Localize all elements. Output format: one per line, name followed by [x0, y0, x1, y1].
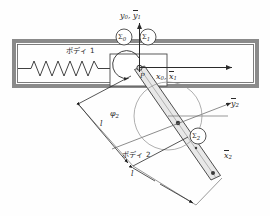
phi-symbol: φ: [110, 109, 116, 118]
x2-symbol: x: [224, 150, 229, 160]
spring-element: [18, 61, 111, 76]
frame1-label: Σ1: [142, 33, 150, 41]
frame0-label: Σ0: [118, 33, 126, 41]
y1-symbol: y: [133, 10, 138, 20]
body2-label: ボディ 2: [122, 151, 151, 158]
sigma1-subscript: 1: [147, 36, 150, 42]
sigma1-symbol: Σ: [142, 33, 147, 41]
x2-subscript: 2: [229, 154, 232, 160]
x1-subscript: 1: [174, 75, 177, 81]
axis-label-x0-x1: x0, x1: [156, 71, 177, 81]
sigma2-subscript: 2: [197, 135, 200, 141]
length-label-lower: l: [131, 170, 134, 178]
frame2-label: Σ2: [192, 132, 200, 140]
y1-subscript: 1: [138, 14, 141, 20]
axis-label-y2: y2: [231, 98, 239, 108]
sigma0-symbol: Σ: [118, 33, 123, 41]
pivot-point-label: P: [140, 73, 145, 80]
x1-symbol: x: [169, 71, 174, 81]
x0-symbol: x: [156, 72, 161, 81]
y2-symbol: y: [231, 98, 236, 108]
axis-label-x2: x2: [224, 150, 232, 160]
sigma2-symbol: Σ: [192, 132, 197, 140]
diagram-canvas: y0, y1 Σ0 Σ1 ボディ 1 x0, x1 P φ2 y2 Σ2 x2 …: [0, 0, 270, 216]
phi-subscript: 2: [116, 113, 119, 119]
y0-subscript: 0: [125, 14, 128, 20]
sigma0-subscript: 0: [123, 36, 126, 42]
axis-sep: ,: [128, 11, 131, 20]
phi2-label: φ2: [110, 110, 119, 118]
y2-subscript: 2: [236, 102, 239, 108]
length-label-upper: l: [100, 120, 103, 128]
axis-sep-x: ,: [164, 72, 167, 81]
diagram-svg: [0, 0, 270, 216]
body1-label: ボディ 1: [66, 47, 95, 54]
y0-symbol: y: [120, 11, 125, 20]
axis-label-y0-y1: y0, y1: [120, 10, 141, 20]
x0-subscript: 0: [161, 75, 164, 81]
